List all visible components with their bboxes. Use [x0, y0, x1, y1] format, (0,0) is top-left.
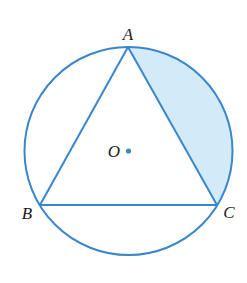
geometry-diagram: A B C O	[0, 0, 247, 283]
label-o: O	[108, 142, 120, 161]
side-ab	[40, 47, 128, 205]
shaded-segment-ac	[128, 47, 232, 205]
label-c: C	[223, 203, 235, 222]
label-a: A	[122, 25, 134, 44]
center-dot	[126, 148, 131, 153]
label-b: B	[22, 204, 33, 223]
